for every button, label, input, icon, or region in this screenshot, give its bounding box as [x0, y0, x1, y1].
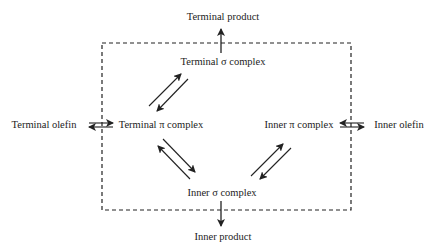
arrow-tpi-to-tsigma: [149, 74, 181, 106]
node-inner-olefin: Inner olefin: [374, 120, 423, 131]
node-inner-pi-complex: Inner π complex: [265, 120, 334, 131]
node-inner-sigma-complex: Inner σ complex: [187, 188, 256, 199]
node-terminal-olefin: Terminal olefin: [12, 120, 77, 131]
arrow-isigma-to-ipi: [251, 144, 283, 176]
node-terminal-product: Terminal product: [187, 12, 259, 23]
arrow-tsigma-to-tpi: [157, 79, 188, 111]
arrow-ipi-to-isigma: [260, 148, 291, 179]
node-terminal-pi-complex: Terminal π complex: [119, 120, 203, 131]
node-terminal-sigma-complex: Terminal σ complex: [181, 57, 266, 68]
node-inner-product: Inner product: [195, 232, 252, 243]
